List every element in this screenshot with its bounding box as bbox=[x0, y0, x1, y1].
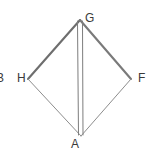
edge-A-F bbox=[81, 79, 131, 136]
edge-G-F bbox=[80, 20, 131, 79]
vertex-label-A: A bbox=[71, 138, 79, 150]
vertex-label-G: G bbox=[85, 12, 94, 24]
interior-line-GA-right bbox=[83, 21, 84, 135]
edge-H-A bbox=[28, 79, 81, 136]
vertex-label-B: B bbox=[0, 72, 4, 84]
interior-line-GA-left bbox=[78, 21, 79, 135]
vertex-label-H: H bbox=[17, 72, 26, 84]
vertex-label-F: F bbox=[138, 72, 145, 84]
edge-H-G bbox=[28, 20, 80, 79]
geometry-figure: G H F A B bbox=[0, 0, 153, 161]
